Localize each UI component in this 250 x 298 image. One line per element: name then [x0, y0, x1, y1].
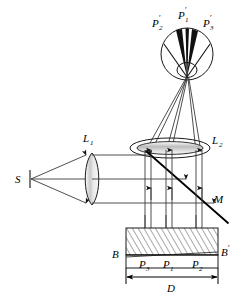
optics-diagram-canvas: P 2 ′ P 1 ′ P 3 ′ L 2 [0, 0, 250, 298]
label-lens2-sub: 2 [219, 141, 223, 149]
ray-s-lower [31, 179, 86, 203]
label-source: S [15, 173, 21, 185]
label-p2-prime: P [151, 17, 159, 29]
label-point-p2-sub: 2 [199, 265, 203, 273]
label-point-p2: P [191, 258, 199, 270]
label-p1-prime-mark: ′ [185, 6, 187, 15]
label-p2-prime-mark: ′ [159, 14, 161, 23]
label-lens1-sub: 1 [90, 139, 94, 147]
beam-source-to-lens1 [31, 155, 93, 203]
label-p3-prime-mark: ′ [210, 14, 212, 23]
label-p1-prime: P [177, 9, 185, 21]
label-point-p1-sub: 1 [170, 265, 174, 273]
label-p3-prime: P [202, 17, 210, 29]
beam-splitter: M [146, 151, 228, 223]
label-p3-prime-sub: 3 [209, 24, 214, 32]
lens1-label-group: L 1 [82, 132, 94, 147]
label-p1-prime-sub: 1 [185, 16, 189, 24]
label-b-right-prime: ′ [228, 244, 230, 253]
ray-cone-a1 [145, 78, 186, 152]
observer-eye [161, 28, 213, 80]
label-point-p3: P [138, 258, 146, 270]
beam-lens2-to-eye [145, 78, 201, 152]
label-lens2: L [211, 134, 218, 146]
optics-figure: P 2 ′ P 1 ′ P 3 ′ L 2 [0, 0, 250, 298]
label-b-left: B [112, 248, 119, 260]
ray-cone-b2 [171, 78, 187, 152]
ray-s-upper [31, 155, 86, 179]
point-source: S [15, 170, 30, 188]
mirror-surface [146, 151, 228, 223]
label-dimension-d: D [166, 282, 175, 294]
sample-hatched-layer [126, 228, 218, 255]
label-point-p3-sub: 3 [145, 265, 150, 273]
label-b-right: B [221, 246, 228, 258]
lens2-label-group: L 2 [211, 134, 223, 149]
label-lens1: L [82, 132, 89, 144]
label-mirror: M [213, 193, 224, 205]
label-p2-prime-sub: 2 [159, 24, 163, 32]
label-point-p1: P [162, 258, 170, 270]
